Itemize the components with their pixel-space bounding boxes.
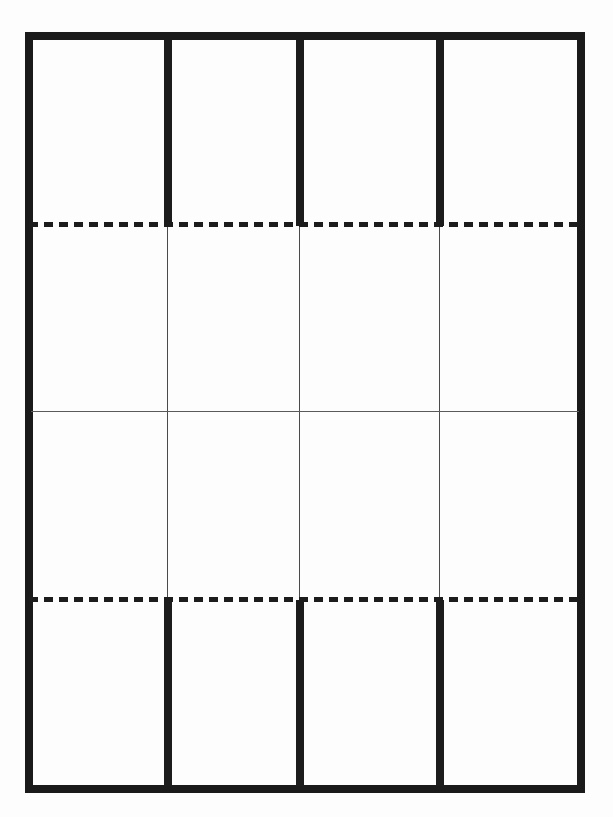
column-divider-3-top-segment bbox=[436, 40, 444, 226]
column-divider-2-bottom-segment bbox=[296, 600, 304, 786]
grid-cell-r2c2[interactable] bbox=[168, 227, 299, 411]
column-divider-3-bottom-segment bbox=[436, 600, 444, 786]
grid-cell-r2c4[interactable] bbox=[440, 227, 577, 411]
grid-cell-r4c1[interactable] bbox=[33, 602, 164, 785]
column-divider-2-top-segment bbox=[296, 40, 304, 226]
grid-cell-r3c1[interactable] bbox=[33, 412, 167, 597]
grid-cell-r2c3[interactable] bbox=[300, 227, 439, 411]
grid-cell-r1c3[interactable] bbox=[304, 40, 436, 222]
grid-cell-r2c1[interactable] bbox=[33, 227, 167, 411]
grid-cell-r3c2[interactable] bbox=[168, 412, 299, 597]
grid-cell-r1c2[interactable] bbox=[172, 40, 296, 222]
grid-cell-r4c4[interactable] bbox=[444, 602, 577, 785]
grid-cell-r1c4[interactable] bbox=[444, 40, 577, 222]
grid-cell-r4c3[interactable] bbox=[304, 602, 436, 785]
grid-cell-r4c2[interactable] bbox=[172, 602, 296, 785]
grid-cell-r3c3[interactable] bbox=[300, 412, 439, 597]
grid-diagram bbox=[0, 0, 613, 817]
column-divider-1-bottom-segment bbox=[164, 600, 172, 786]
frame-left-border bbox=[25, 32, 33, 793]
figure-page bbox=[0, 0, 613, 817]
grid-cell-r3c4[interactable] bbox=[440, 412, 577, 597]
frame-right-border bbox=[577, 32, 585, 793]
frame-bottom-border bbox=[25, 785, 585, 793]
frame-top-border bbox=[25, 32, 585, 40]
column-divider-1-top-segment bbox=[164, 40, 172, 226]
grid-cell-r1c1[interactable] bbox=[33, 40, 164, 222]
